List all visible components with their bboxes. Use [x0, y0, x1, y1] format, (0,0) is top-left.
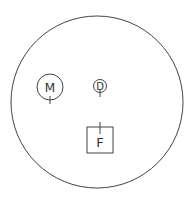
node-d-label: D [96, 81, 104, 92]
node-f-label: F [96, 135, 103, 150]
node-d: D [94, 80, 107, 98]
node-m: M [37, 74, 63, 104]
node-m-label: M [45, 81, 55, 95]
diagram-canvas: M D F [0, 0, 194, 201]
node-f: F [87, 122, 113, 153]
outer-circle [11, 16, 183, 188]
